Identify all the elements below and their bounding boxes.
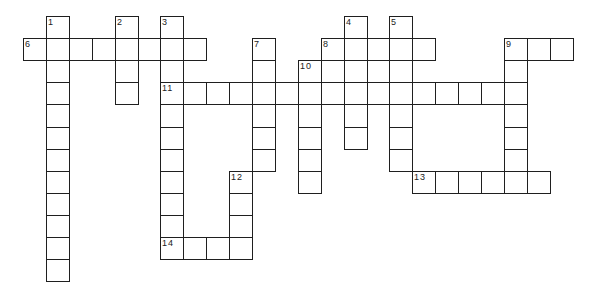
crossword-cell[interactable] xyxy=(46,38,70,61)
crossword-cell[interactable] xyxy=(160,193,184,216)
crossword-cell[interactable] xyxy=(46,215,70,238)
crossword-cell[interactable] xyxy=(367,38,390,61)
crossword-cell[interactable]: 7 xyxy=(252,38,276,61)
crossword-cell[interactable] xyxy=(504,82,528,105)
clue-number: 4 xyxy=(346,17,352,27)
clue-number: 5 xyxy=(391,17,397,27)
crossword-cell[interactable] xyxy=(367,82,390,105)
crossword-cell[interactable] xyxy=(298,104,322,128)
crossword-cell[interactable] xyxy=(46,193,70,216)
crossword-cell[interactable] xyxy=(389,38,413,61)
crossword-cell[interactable] xyxy=(504,127,528,150)
crossword-cell[interactable] xyxy=(160,38,184,61)
crossword-cell[interactable] xyxy=(458,82,482,105)
clue-number: 6 xyxy=(25,39,31,49)
crossword-cell[interactable] xyxy=(504,171,528,194)
crossword-cell[interactable] xyxy=(389,149,413,172)
crossword-cell[interactable]: 11 xyxy=(160,82,184,105)
crossword-cell[interactable]: 6 xyxy=(23,38,47,61)
clue-number: 3 xyxy=(162,17,168,27)
crossword-cell[interactable] xyxy=(206,237,230,260)
crossword-cell[interactable] xyxy=(160,149,184,172)
crossword-cell[interactable] xyxy=(229,193,253,216)
crossword-cell[interactable] xyxy=(138,38,161,61)
crossword-cell[interactable] xyxy=(160,215,184,238)
crossword-cell[interactable] xyxy=(252,60,276,83)
crossword-cell[interactable] xyxy=(412,38,436,61)
crossword-cell[interactable] xyxy=(252,149,276,172)
crossword-cell[interactable] xyxy=(344,82,368,105)
crossword-cell[interactable] xyxy=(46,171,70,194)
crossword-cell[interactable] xyxy=(481,82,505,105)
crossword-cell[interactable] xyxy=(321,82,345,105)
crossword-cell[interactable] xyxy=(435,82,459,105)
crossword-cell[interactable] xyxy=(92,38,116,61)
crossword-cell[interactable] xyxy=(160,127,184,150)
clue-number: 2 xyxy=(117,17,123,27)
crossword-cell[interactable]: 9 xyxy=(504,38,528,61)
clue-number: 9 xyxy=(506,39,512,49)
crossword-cell[interactable] xyxy=(69,38,93,61)
crossword-cell[interactable] xyxy=(504,60,528,83)
crossword-cell[interactable] xyxy=(298,82,322,105)
crossword-cell[interactable]: 4 xyxy=(344,16,368,39)
crossword-cell[interactable] xyxy=(46,104,70,128)
crossword-cell[interactable] xyxy=(481,171,505,194)
crossword-cell[interactable] xyxy=(550,38,574,61)
crossword-cell[interactable] xyxy=(183,82,207,105)
crossword-cell[interactable]: 8 xyxy=(321,38,345,61)
crossword-cell[interactable] xyxy=(206,82,230,105)
crossword-cell[interactable] xyxy=(389,104,413,128)
crossword-cell[interactable] xyxy=(389,82,413,105)
crossword-cell[interactable] xyxy=(298,127,322,150)
crossword-cell[interactable] xyxy=(252,82,276,105)
crossword-cell[interactable] xyxy=(527,38,551,61)
crossword-cell[interactable] xyxy=(229,237,253,260)
clue-number: 13 xyxy=(414,172,426,182)
crossword-cell[interactable]: 5 xyxy=(389,16,413,39)
crossword-cell[interactable] xyxy=(504,149,528,172)
crossword-cell[interactable] xyxy=(46,149,70,172)
crossword-cell[interactable] xyxy=(183,237,207,260)
crossword-cell[interactable] xyxy=(344,127,368,150)
crossword-cell[interactable]: 14 xyxy=(160,237,184,260)
crossword-cell[interactable] xyxy=(229,82,253,105)
crossword-cell[interactable]: 2 xyxy=(115,16,139,39)
crossword-cell[interactable] xyxy=(46,259,70,282)
crossword-cell[interactable] xyxy=(298,149,322,172)
crossword-cell[interactable]: 3 xyxy=(160,16,184,39)
crossword-cell[interactable] xyxy=(46,82,70,105)
crossword-cell[interactable] xyxy=(183,38,207,61)
crossword-cell[interactable] xyxy=(344,60,368,83)
crossword-cell[interactable] xyxy=(115,38,139,61)
crossword-cell[interactable]: 13 xyxy=(412,171,436,194)
crossword-cell[interactable] xyxy=(412,82,436,105)
crossword-cell[interactable] xyxy=(527,171,551,194)
clue-number: 12 xyxy=(231,172,243,182)
crossword-cell[interactable] xyxy=(321,60,345,83)
crossword-cell[interactable] xyxy=(46,237,70,260)
crossword-cell[interactable] xyxy=(115,82,139,105)
crossword-cell[interactable] xyxy=(367,60,390,83)
crossword-cell[interactable] xyxy=(435,171,459,194)
crossword-cell[interactable] xyxy=(160,171,184,194)
crossword-cell[interactable]: 1 xyxy=(46,16,70,39)
crossword-cell[interactable] xyxy=(160,104,184,128)
crossword-cell[interactable] xyxy=(298,171,322,194)
crossword-cell[interactable] xyxy=(504,104,528,128)
crossword-cell[interactable] xyxy=(229,215,253,238)
crossword-cell[interactable] xyxy=(160,60,184,83)
crossword-cell[interactable] xyxy=(344,38,368,61)
crossword-cell[interactable] xyxy=(344,104,368,128)
crossword-cell[interactable] xyxy=(252,104,276,128)
crossword-cell[interactable] xyxy=(389,60,413,83)
crossword-cell[interactable]: 12 xyxy=(229,171,253,194)
crossword-cell[interactable] xyxy=(46,127,70,150)
crossword-cell[interactable] xyxy=(275,82,299,105)
crossword-cell[interactable] xyxy=(389,127,413,150)
crossword-cell[interactable] xyxy=(46,60,70,83)
crossword-cell[interactable] xyxy=(252,127,276,150)
crossword-cell[interactable] xyxy=(458,171,482,194)
crossword-cell[interactable] xyxy=(115,60,139,83)
crossword-cell[interactable]: 10 xyxy=(298,60,322,83)
